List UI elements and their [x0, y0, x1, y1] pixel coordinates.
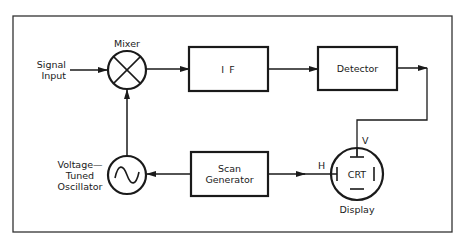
if-label: I F: [189, 64, 268, 75]
scan-generator-label: Scan Generator: [191, 163, 268, 185]
scan-generator-label-line2: Generator: [191, 174, 268, 185]
display-label: Display: [327, 204, 387, 215]
vto-label: Voltage— Tuned Oscillator: [52, 159, 108, 192]
crt-label: CRT: [342, 169, 372, 180]
oscillator-symbol: [108, 156, 146, 194]
signal-input-label-line2: Input: [18, 70, 66, 81]
detector-label: Detector: [318, 63, 397, 74]
vto-label-line3: Oscillator: [52, 181, 108, 192]
signal-input-label: Signal Input: [18, 59, 66, 81]
block-diagram: [0, 0, 462, 242]
h-input-label: H: [318, 160, 325, 171]
mixer-label: Mixer: [102, 38, 152, 49]
vto-label-line1: Voltage—: [52, 159, 108, 170]
v-input-label: V: [362, 135, 369, 146]
mixer-symbol: [108, 51, 146, 89]
signal-input-label-line1: Signal: [18, 59, 66, 70]
scan-generator-label-line1: Scan: [191, 163, 268, 174]
vto-label-line2: Tuned: [52, 170, 108, 181]
